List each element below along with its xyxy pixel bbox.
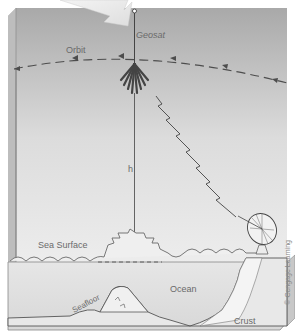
orbit-label: Orbit <box>66 45 86 55</box>
satellite-label: Geosat <box>136 30 166 40</box>
satellite-icon <box>133 9 137 13</box>
crust-label: Crust <box>234 316 256 326</box>
altimetry-diagram: Geosat Orbit h Sea Surface Ocean Seafloo… <box>0 0 295 336</box>
height-label: h <box>128 164 133 174</box>
ocean-label: Ocean <box>170 284 197 294</box>
copyright-credit: © Cengage Learning <box>284 240 291 305</box>
sea-surface-label: Sea Surface <box>38 240 88 250</box>
